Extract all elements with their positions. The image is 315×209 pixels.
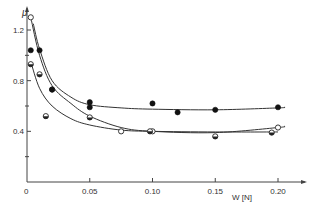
- x-tick-label: 0.20: [270, 187, 286, 196]
- y-axis-label: μ: [21, 7, 28, 18]
- fit-curves: [31, 17, 285, 132]
- x-tick-label: 0.05: [82, 187, 98, 196]
- fit-curve-2: [31, 62, 278, 132]
- open-circle-marker-icon: [28, 15, 33, 20]
- fit-curve-0: [31, 17, 285, 132]
- filled-circle-marker-icon: [275, 105, 280, 110]
- filled-circle-marker-icon: [50, 87, 55, 92]
- filled-circle-marker-icon: [87, 105, 92, 110]
- x-tick-label: 0: [24, 187, 29, 196]
- filled-circle-marker-icon: [37, 48, 42, 53]
- y-tick-label: 0.8: [13, 77, 25, 86]
- data-points: [28, 15, 280, 139]
- filled-circle-marker-icon: [175, 110, 180, 115]
- filled-circle-marker-icon: [150, 101, 155, 106]
- filled-circle-marker-icon: [28, 48, 33, 53]
- filled-circle-marker-icon: [87, 100, 92, 105]
- fit-curve-1: [33, 24, 285, 110]
- y-tick-label: 0.4: [13, 127, 25, 136]
- open-circle-marker-icon: [119, 129, 124, 134]
- x-axis-arrow-icon: [301, 180, 307, 184]
- x-tick-label: 0.10: [145, 187, 161, 196]
- x-tick-label: 0.15: [207, 187, 223, 196]
- filled-circle-marker-icon: [213, 107, 218, 112]
- axes: 00.050.100.150.200.40.81.2: [13, 6, 307, 196]
- y-tick-label: 1.2: [13, 26, 25, 35]
- x-axis-label: W [N]: [232, 193, 252, 202]
- open-circle-marker-icon: [275, 125, 280, 130]
- chart: 00.050.100.150.200.40.81.2 μ W [N]: [0, 0, 315, 209]
